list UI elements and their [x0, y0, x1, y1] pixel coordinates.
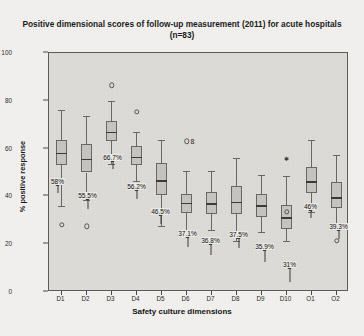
x-tick-label-d2: D2: [81, 295, 89, 302]
y-tick-label: 20: [0, 240, 12, 247]
x-tick-mark: [286, 291, 287, 295]
x-tick-label-d5: D5: [156, 295, 164, 302]
y-tick-label: 60: [0, 144, 12, 151]
median-value-arrow: [57, 186, 58, 193]
x-tick-mark: [236, 291, 237, 295]
median-value-label-d4: 56.2%: [127, 183, 147, 190]
x-tick-mark: [111, 291, 112, 295]
median-value-label-d5: 46.5%: [151, 208, 171, 215]
median-value-label-d3: 66.7%: [103, 154, 123, 161]
median-value-label-d1: 58%: [50, 178, 64, 185]
x-tick-label-o1: O1: [306, 295, 314, 302]
x-tick-mark: [261, 291, 262, 295]
y-tick-label: 40: [0, 192, 12, 199]
boxplot-o2: [49, 53, 347, 290]
chart-title: Positive dimensional scores of follow-up…: [0, 19, 364, 40]
x-tick-label-o2: O2: [331, 295, 339, 302]
y-tick-mark: [43, 243, 48, 244]
y-tick-label: 0: [0, 288, 12, 295]
median-line: [331, 197, 342, 198]
x-tick-label-d6: D6: [181, 295, 189, 302]
x-tick-mark: [161, 291, 162, 295]
plot-inner: 8✱: [49, 53, 347, 290]
y-tick-mark: [43, 147, 48, 148]
y-tick-mark: [43, 52, 48, 53]
median-value-label-d6: 37.1%: [178, 230, 198, 237]
median-value-arrow: [112, 162, 113, 169]
median-value-arrow: [310, 211, 311, 218]
median-value-arrow: [160, 216, 161, 224]
median-value-label-d2: 55.5%: [78, 192, 98, 199]
x-tick-label-d8: D8: [231, 295, 239, 302]
median-value-arrow: [338, 231, 339, 239]
x-tick-mark: [136, 291, 137, 295]
whisker-upper: [336, 155, 337, 182]
x-tick-mark: [211, 291, 212, 295]
y-axis-title: % positive response: [18, 92, 27, 262]
x-tick-label-d7: D7: [206, 295, 214, 302]
median-value-label-d9: 35.9%: [255, 243, 275, 250]
x-axis-title: Safety culture dimensions: [0, 307, 364, 316]
y-tick-mark: [43, 291, 48, 292]
median-value-arrow: [136, 191, 137, 199]
cap-upper: [333, 155, 340, 156]
y-tick-mark: [43, 195, 48, 196]
box-iqr: [331, 182, 342, 208]
median-value-label-d8: 37.5%: [229, 231, 249, 238]
median-value-label-d7: 36.8%: [201, 237, 221, 244]
x-tick-mark: [86, 291, 87, 295]
median-value-arrow: [210, 245, 211, 255]
x-tick-label-d1: D1: [56, 295, 64, 302]
x-tick-mark: [61, 291, 62, 295]
median-value-arrow: [187, 238, 188, 247]
median-value-label-o2: 39.3%: [329, 223, 349, 230]
median-value-arrow: [87, 200, 88, 209]
median-value-arrow: [289, 269, 290, 282]
y-tick-label: 100: [0, 49, 12, 56]
x-tick-label-d10: D10: [280, 295, 292, 302]
median-value-label-o1: 46%: [303, 203, 317, 210]
x-tick-label-d4: D4: [131, 295, 139, 302]
x-tick-mark: [186, 291, 187, 295]
median-value-arrow: [264, 251, 265, 262]
y-tick-mark: [43, 99, 48, 100]
median-value-label-d10: 31%: [282, 261, 296, 268]
x-tick-label-d3: D3: [106, 295, 114, 302]
x-tick-mark: [336, 291, 337, 295]
x-tick-mark: [311, 291, 312, 295]
y-tick-label: 80: [0, 96, 12, 103]
median-value-arrow: [238, 239, 239, 248]
plot-area: 8✱: [48, 52, 348, 291]
x-tick-label-d9: D9: [256, 295, 264, 302]
